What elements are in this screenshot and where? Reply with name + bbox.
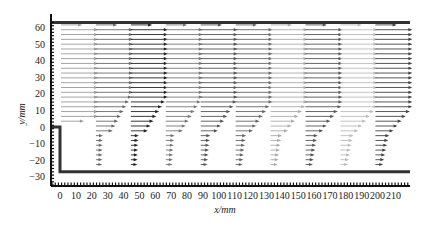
- x-tick-label: 210: [386, 190, 401, 201]
- x-tick-label: 100: [211, 190, 226, 201]
- velocity-profile: [375, 23, 412, 166]
- x-tick-label: 130: [259, 190, 274, 201]
- x-tick-label: 0: [58, 190, 63, 201]
- quiver-plot: 6050403020100−10−20−30010203040506070809…: [0, 0, 425, 225]
- velocity-vectors: [61, 23, 412, 166]
- y-tick-label: −20: [29, 155, 45, 166]
- y-tick-label: 50: [35, 39, 45, 50]
- velocity-profile: [306, 23, 343, 166]
- y-tick-label: 20: [35, 88, 45, 99]
- y-tick-label: 30: [35, 72, 45, 83]
- x-tick-label: 110: [227, 190, 242, 201]
- x-tick-label: 40: [119, 190, 129, 201]
- velocity-profile: [61, 23, 98, 122]
- x-tick-label: 60: [150, 190, 160, 201]
- velocity-profile: [236, 23, 273, 166]
- x-tick-label: 190: [354, 190, 369, 201]
- x-tick-label: 150: [291, 190, 306, 201]
- x-tick-label: 200: [370, 190, 385, 201]
- x-tick-label: 30: [103, 190, 113, 201]
- x-tick-label: 160: [307, 190, 322, 201]
- velocity-profile: [271, 23, 308, 166]
- velocity-profile: [96, 23, 133, 166]
- y-tick-label: 60: [35, 22, 45, 33]
- y-tick-label: 0: [40, 122, 45, 133]
- x-tick-label: 90: [198, 190, 208, 201]
- x-tick-label: 170: [322, 190, 337, 201]
- velocity-profile: [166, 23, 203, 166]
- y-axis-title: y/mm: [16, 103, 27, 126]
- x-axis-title: x/mm: [213, 204, 236, 215]
- velocity-profile: [131, 23, 168, 166]
- x-tick-label: 140: [275, 190, 290, 201]
- x-tick-label: 20: [87, 190, 97, 201]
- x-tick-label: 70: [166, 190, 176, 201]
- y-tick-label: −30: [29, 171, 45, 182]
- velocity-profile: [340, 23, 377, 166]
- x-tick-label: 80: [182, 190, 192, 201]
- velocity-profile: [201, 23, 238, 166]
- x-tick-label: 120: [243, 190, 258, 201]
- y-tick-label: −10: [29, 138, 45, 149]
- step-wall: [51, 127, 410, 172]
- x-tick-label: 180: [338, 190, 353, 201]
- x-tick-label: 10: [71, 190, 81, 201]
- x-tick-label: 50: [134, 190, 144, 201]
- y-tick-label: 40: [35, 55, 45, 66]
- y-tick-label: 10: [35, 105, 45, 116]
